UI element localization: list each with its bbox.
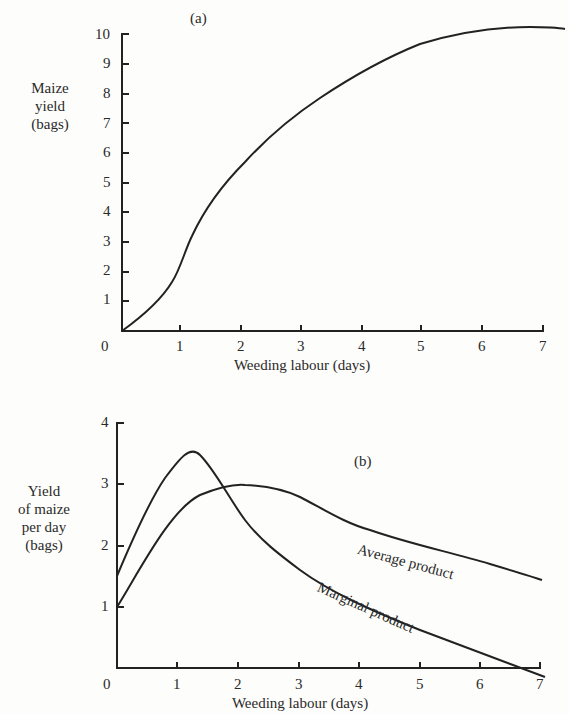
panel-b-ylabel: Yield of maize per day (bags) — [8, 482, 80, 554]
marginal-product-curve — [117, 452, 545, 677]
panel-b-plot — [0, 0, 569, 714]
panel-b-label: (b) — [354, 452, 372, 470]
panel-b-xlabel: Weeding labour (days) — [180, 694, 420, 712]
